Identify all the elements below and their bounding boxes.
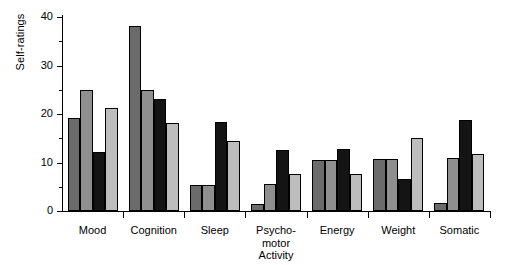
bar (190, 185, 203, 211)
bar (93, 152, 106, 211)
bar (141, 90, 154, 211)
bar (289, 174, 302, 211)
y-tick-label: 20 (41, 107, 53, 120)
bar (276, 150, 289, 211)
bar (325, 160, 338, 211)
x-tick-mark (307, 212, 308, 218)
x-axis-group-label: Psycho- motor Activity (245, 224, 306, 262)
y-tick-label: 10 (41, 156, 53, 169)
x-axis-group-label: Weight (368, 224, 429, 237)
x-axis-group-label: Somatic (429, 224, 490, 237)
bar (447, 158, 460, 211)
y-tick-label: 0 (47, 204, 53, 217)
y-tick-minor (0, 187, 62, 188)
x-tick-mark (429, 212, 430, 218)
y-tick-minor (0, 138, 62, 139)
y-tick-major: 10 (0, 163, 62, 164)
bar (105, 108, 118, 211)
bar (166, 123, 179, 211)
y-tick-minor (0, 90, 62, 91)
bar (129, 26, 142, 211)
y-tick-major: 30 (0, 66, 62, 67)
bar (411, 138, 424, 211)
y-tick-major: 40 (0, 17, 62, 18)
x-axis-group-label: Energy (307, 224, 368, 237)
bar (202, 185, 215, 211)
y-tick-label: 30 (41, 59, 53, 72)
x-tick-mark (123, 212, 124, 218)
y-tick-minor (0, 41, 62, 42)
plot-area (62, 17, 490, 211)
y-tick-label: 40 (41, 10, 53, 23)
x-tick-mark (245, 212, 246, 218)
bar-chart: Self-ratings 010203040 MoodCognitionSlee… (0, 0, 511, 265)
x-axis-line (62, 211, 491, 212)
bar (264, 184, 277, 211)
bar (434, 203, 447, 211)
bar (312, 160, 325, 211)
bar (154, 99, 167, 211)
y-tick-mark (57, 211, 62, 212)
y-tick-major: 20 (0, 114, 62, 115)
x-tick-mark (490, 212, 491, 218)
bar (251, 204, 264, 211)
bar (337, 149, 350, 211)
bar (386, 159, 399, 211)
x-axis-group-label: Cognition (123, 224, 184, 237)
x-tick-mark (368, 212, 369, 218)
bar (227, 141, 240, 211)
bar (350, 174, 363, 211)
y-tick-major: 0 (0, 211, 62, 212)
bar (215, 122, 228, 211)
x-tick-mark (184, 212, 185, 218)
x-axis-group-label: Mood (62, 224, 123, 237)
bar (472, 154, 485, 211)
bar (459, 120, 472, 211)
y-axis-title: Self-ratings (14, 0, 34, 92)
bar (68, 118, 81, 211)
bar (80, 90, 93, 211)
bar (373, 159, 386, 211)
x-axis-group-label: Sleep (184, 224, 245, 237)
bar (398, 179, 411, 211)
